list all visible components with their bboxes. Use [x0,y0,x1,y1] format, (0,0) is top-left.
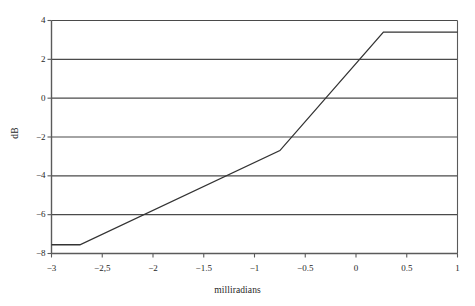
y-tick-label: −4 [20,170,46,181]
x-tick-label: −2,5 [82,262,122,274]
y-tick-label: −8 [20,248,46,259]
y-tick-label: −2 [20,132,46,143]
x-tick-label: −2 [133,262,173,274]
x-tick-label: 0.5 [387,262,427,274]
x-axis-title: milliradians [0,285,475,295]
gridlines-group [52,21,458,254]
x-tick-label: 0 [336,262,376,274]
x-tick-label: −0.5 [285,262,325,274]
data-series-line [52,32,458,245]
y-tick-label: 0 [20,93,46,104]
y-tick-label: 2 [20,54,46,65]
x-tick-label: −1.5 [184,262,224,274]
data-series-group [52,32,458,245]
x-tick-label: −3 [32,262,72,274]
line-chart: −8−6−4−2024 −3−2,5−2−1.5−1−0.500.51 dB m… [0,0,475,306]
y-tick-label: 4 [20,15,46,26]
y-tick-label: −6 [20,209,46,220]
x-tick-label: −1 [235,262,275,274]
plot-canvas [0,0,475,306]
y-axis-title: dB [10,118,20,148]
x-tick-label: 1 [438,262,475,274]
